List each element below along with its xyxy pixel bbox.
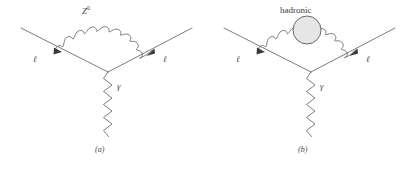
outgoing-fermion-line-b: [311, 28, 395, 72]
caption-a: (a): [95, 146, 104, 154]
caption-b: (b): [298, 146, 307, 154]
hadronic-blob-b: [293, 16, 321, 44]
outgoing-lepton-label-a: ℓ: [163, 55, 167, 64]
fermion-arrow-left-a: [54, 48, 63, 55]
incoming-fermion-line-a: [21, 28, 108, 72]
z-boson-loop-a: [55, 27, 142, 58]
fermion-arrow-left-b: [257, 48, 266, 55]
feynman-figure: Z0 ℓ ℓ γ (a): [0, 0, 406, 171]
photon-label-b: γ: [320, 82, 324, 91]
diagram-panel-a: Z0 ℓ ℓ γ (a): [0, 0, 203, 171]
diagram-panel-b: hadronic ℓ ℓ γ (b): [203, 0, 406, 171]
hadronic-loop-right-b: [321, 28, 347, 57]
z-boson-label-a: Z0: [82, 7, 90, 16]
incoming-lepton-label-a: ℓ: [33, 55, 37, 64]
outgoing-lepton-label-b: ℓ: [366, 55, 370, 64]
incoming-lepton-label-b: ℓ: [236, 55, 240, 64]
photon-line-a: [104, 72, 113, 137]
photon-line-b: [307, 72, 316, 137]
photon-label-a: γ: [117, 82, 121, 91]
hadronic-label-b: hadronic: [280, 6, 312, 15]
